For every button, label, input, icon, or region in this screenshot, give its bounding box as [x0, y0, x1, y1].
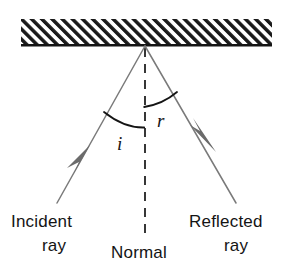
angle-label-i: i — [117, 133, 122, 154]
reflection-diagram: i r Incident ray Normal Reflected ray — [0, 0, 291, 269]
angle-label-r: r — [157, 110, 165, 131]
reflected-ray-label-line1: Reflected — [189, 212, 263, 231]
arc-r-stroke — [144, 92, 177, 107]
angle-of-reflection-arc — [144, 92, 177, 107]
mirror-surface — [21, 19, 272, 45]
incident-ray-arrowhead — [67, 145, 90, 173]
incident-ray-line — [57, 46, 145, 203]
incident-ray — [57, 46, 145, 203]
arc-i-stroke — [104, 112, 144, 128]
incident-ray-label-line2: ray — [42, 236, 67, 255]
mirror-hatching — [21, 19, 272, 44]
reflected-ray-label-line2: ray — [224, 236, 249, 255]
reflection-diagram-canvas: i r Incident ray Normal Reflected ray — [0, 0, 291, 269]
incident-ray-label-line1: Incident — [11, 212, 72, 231]
angle-of-incidence-arc — [104, 112, 144, 128]
normal-label: Normal — [111, 243, 167, 262]
